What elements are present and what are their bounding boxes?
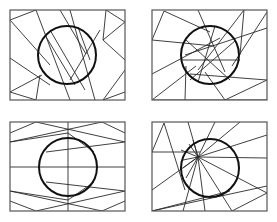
chord-line: [185, 28, 267, 55]
chord-line: [164, 123, 185, 190]
panel-frame: [10, 122, 125, 211]
panel-top-left: [10, 10, 125, 100]
diagram-figure: [0, 0, 277, 222]
panel-top-right: [152, 10, 267, 100]
chord-line: [186, 157, 198, 178]
chord-line: [103, 70, 125, 100]
chord-lines: [152, 10, 267, 100]
chord-lines: [10, 122, 125, 211]
chord-line: [10, 92, 36, 100]
chord-line: [10, 20, 50, 65]
chord-line: [198, 157, 205, 211]
chord-line: [152, 123, 164, 152]
panel-bottom-right: [152, 122, 267, 211]
chord-line: [198, 10, 244, 70]
circle-shape: [181, 139, 239, 197]
chord-line: [10, 122, 36, 133]
chord-line: [103, 40, 125, 60]
chord-line: [10, 201, 36, 211]
chord-line: [10, 122, 102, 142]
chord-line: [10, 10, 36, 20]
chord-line: [232, 12, 267, 66]
chord-line: [152, 191, 230, 211]
chord-line: [36, 122, 125, 142]
chord-line: [198, 157, 232, 211]
chord-line: [106, 10, 125, 22]
panel-bottom-left: [10, 122, 125, 211]
chord-line: [103, 22, 125, 40]
chord-line: [152, 11, 164, 40]
chord-line: [152, 186, 267, 211]
chord-lines: [10, 10, 125, 100]
chord-line: [152, 66, 196, 100]
chord-line: [60, 10, 86, 54]
chord-line: [10, 75, 42, 92]
chord-line: [102, 122, 125, 133]
chord-line: [225, 80, 267, 100]
chord-line: [198, 157, 267, 158]
chord-line: [102, 201, 125, 211]
chord-line: [36, 75, 40, 100]
chord-line: [232, 193, 267, 211]
circle-shape: [38, 26, 96, 84]
chord-line: [10, 133, 68, 142]
chord-line: [103, 10, 106, 40]
